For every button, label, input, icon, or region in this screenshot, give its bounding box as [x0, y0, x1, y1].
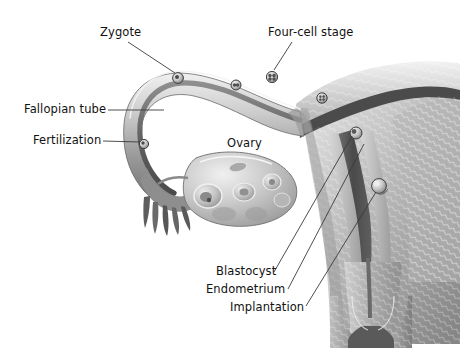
ovary-stroma-shadow: [245, 207, 267, 221]
marker-two-cell: [231, 80, 241, 90]
diagram-canvas: Zygote Four-cell stage Fallopian tube Fe…: [0, 0, 460, 350]
label-zygote: Zygote: [100, 26, 141, 39]
label-fallopian-tube: Fallopian tube: [24, 103, 106, 116]
label-blastocyst: Blastocyst: [216, 265, 276, 278]
label-fertilization: Fertilization: [33, 134, 101, 147]
label-implantation: Implantation: [230, 301, 304, 314]
secondary-antrum: [240, 188, 249, 195]
marker-morula: [317, 93, 327, 103]
marker-four-cell-stage: [266, 71, 277, 82]
corpus-albicans: [212, 207, 236, 221]
marker-fertilization: [139, 139, 148, 148]
corpus-luteum: [274, 193, 290, 207]
primary-antrum: [269, 179, 275, 185]
oocyte: [207, 198, 211, 202]
reproductive-tract-illustration: [0, 0, 460, 350]
label-endometrium: Endometrium: [206, 283, 285, 296]
label-ovary: Ovary: [227, 137, 262, 150]
marker-zygote: [173, 73, 184, 84]
label-four-cell-stage: Four-cell stage: [268, 26, 354, 39]
